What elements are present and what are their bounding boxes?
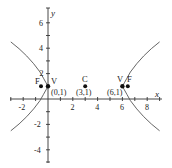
x-axis-label: x — [154, 89, 159, 99]
y-axis-label: y — [50, 8, 55, 18]
y-tick-label: 6 — [39, 19, 43, 28]
x-axis — [10, 97, 162, 101]
focus-right-label: F — [127, 74, 132, 84]
focus-left-label: F — [35, 76, 40, 86]
vertex-left-label: V — [51, 76, 58, 86]
x-tick-label: -2 — [19, 103, 26, 112]
vertex-right-label: V — [117, 74, 124, 84]
y-tick-label: 4 — [39, 44, 43, 53]
hyperbola-chart: x y -2 2 4 6 8 6 4 2 -2 -4 F V (0,1) C (… — [0, 0, 172, 168]
x-tick-label: 8 — [145, 103, 149, 112]
vertex-right-coord: (6,1) — [107, 88, 123, 97]
x-tick-label: 6 — [120, 103, 124, 112]
center-coord: (3,1) — [76, 88, 92, 97]
vertex-left-point — [46, 84, 50, 88]
x-tick-label: 4 — [95, 103, 99, 112]
vertex-left-coord: (0,1) — [51, 88, 67, 97]
y-tick-label: -4 — [34, 146, 41, 155]
focus-right-point — [126, 84, 130, 88]
y-tick-label: -2 — [34, 120, 41, 129]
center-label: C — [82, 74, 88, 84]
x-tick-label: 2 — [71, 103, 75, 112]
